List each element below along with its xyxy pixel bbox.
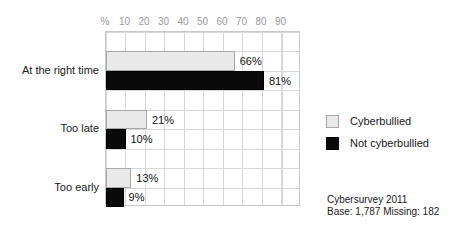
source-note: Cybersurvey 2011 Base: 1,787 Missing: 18… bbox=[327, 194, 461, 218]
legend-item-label: Cyberbullied bbox=[350, 115, 411, 128]
bar-not-cyberbullied bbox=[106, 188, 124, 207]
bar-chart-figure: %102030405060708090 At the right timeToo… bbox=[0, 0, 461, 240]
x-axis-tick-90: 90 bbox=[275, 15, 286, 28]
x-axis-tick-60: 60 bbox=[216, 15, 227, 28]
y-axis-category-label: At the right time bbox=[0, 64, 99, 76]
bar-cyberbullied bbox=[106, 110, 147, 129]
x-axis-tick-labels: %102030405060708090 bbox=[105, 15, 300, 28]
legend-swatch-dark bbox=[326, 137, 339, 150]
bar-cyberbullied bbox=[106, 51, 235, 70]
bar-not-cyberbullied bbox=[106, 71, 264, 90]
legend-item-label: Not cyberbullied bbox=[350, 137, 429, 150]
bar-value-label: 81% bbox=[269, 75, 291, 87]
legend-item: Not cyberbullied bbox=[326, 132, 456, 154]
x-axis-tick-10: 10 bbox=[119, 15, 130, 28]
y-axis-category-label: Too late bbox=[0, 122, 99, 134]
legend-item: Cyberbullied bbox=[326, 110, 456, 132]
bar-cyberbullied bbox=[106, 168, 131, 187]
bar-value-label: 66% bbox=[240, 55, 262, 67]
y-axis-category-label: Too early bbox=[0, 181, 99, 193]
plot-area: 66%81%21%10%13%9% bbox=[105, 31, 300, 206]
y-axis-category-labels: At the right timeToo lateToo early bbox=[0, 31, 99, 206]
x-axis-tick-20: 20 bbox=[138, 15, 149, 28]
source-note-line-1: Cybersurvey 2011 bbox=[327, 194, 461, 206]
bar-value-label: 10% bbox=[131, 133, 153, 145]
x-axis-tick-50: 50 bbox=[197, 15, 208, 28]
bar-value-label: 21% bbox=[152, 114, 174, 126]
x-axis-tick-70: 70 bbox=[236, 15, 247, 28]
x-axis-tick-30: 30 bbox=[158, 15, 169, 28]
chart-legend: CyberbulliedNot cyberbullied bbox=[326, 110, 456, 154]
source-note-line-2: Base: 1,787 Missing: 182 bbox=[327, 206, 461, 218]
bar-value-label: 9% bbox=[129, 191, 145, 203]
bar-value-label: 13% bbox=[136, 172, 158, 184]
bar-not-cyberbullied bbox=[106, 129, 126, 148]
x-axis-tick-80: 80 bbox=[255, 15, 266, 28]
legend-swatch-light bbox=[326, 115, 339, 128]
x-axis-tick-0: % bbox=[101, 15, 110, 28]
x-axis-tick-40: 40 bbox=[177, 15, 188, 28]
